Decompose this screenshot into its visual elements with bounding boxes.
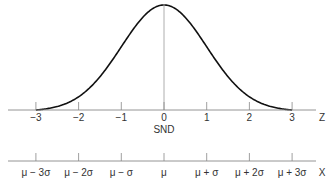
normal-distribution-chart: −3−2−10123 Z SND μ − 3σμ − 2σμ − σμμ + σ… <box>0 0 334 186</box>
z-axis-label: Z <box>319 112 325 123</box>
x-tick-label: μ + 3σ <box>278 167 308 178</box>
z-tick-label: 3 <box>289 112 295 123</box>
snd-caption: SND <box>153 124 174 135</box>
x-axis-ticks: μ − 3σμ − 2σμ − σμμ + σμ + 2σμ + 3σ <box>21 153 307 178</box>
x-tick-label: μ − σ <box>110 167 134 178</box>
x-tick-label: μ − 2σ <box>64 167 94 178</box>
z-tick-label: −1 <box>116 112 128 123</box>
x-axis-label: X <box>319 167 326 178</box>
z-tick-label: −3 <box>30 112 42 123</box>
x-tick-label: μ <box>161 167 167 178</box>
z-tick-label: 0 <box>161 112 167 123</box>
z-tick-label: 1 <box>204 112 210 123</box>
z-axis-ticks: −3−2−10123 <box>30 102 295 123</box>
x-tick-label: μ + 2σ <box>235 167 265 178</box>
x-tick-label: μ − 3σ <box>21 167 51 178</box>
z-tick-label: 2 <box>247 112 253 123</box>
x-tick-label: μ + σ <box>195 167 219 178</box>
z-tick-label: −2 <box>73 112 85 123</box>
